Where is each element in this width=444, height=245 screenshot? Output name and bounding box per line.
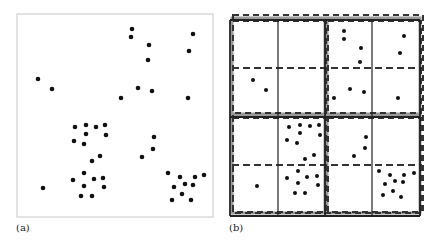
data-point [295, 141, 299, 145]
data-point [151, 147, 156, 152]
data-point [79, 194, 84, 199]
data-point [73, 125, 78, 130]
data-point [285, 176, 289, 180]
data-point [293, 191, 297, 195]
data-point [342, 29, 346, 33]
data-point [191, 183, 196, 188]
data-point [388, 173, 392, 177]
data-point [92, 177, 97, 182]
data-point [396, 96, 400, 100]
data-point [316, 183, 320, 187]
data-point [82, 184, 87, 189]
data-point [251, 78, 255, 82]
data-point [41, 186, 46, 191]
data-point [362, 90, 366, 94]
data-point [71, 178, 76, 183]
data-point [298, 123, 302, 127]
data-point [72, 139, 77, 144]
data-point [98, 154, 103, 159]
data-point [401, 180, 405, 184]
data-point [103, 123, 108, 128]
data-point [342, 37, 346, 41]
data-point [191, 32, 196, 37]
data-point [178, 175, 183, 180]
data-point [358, 60, 362, 64]
data-point [381, 193, 385, 197]
data-point [82, 142, 87, 147]
panel-b-grid-partition [230, 15, 423, 216]
data-point [332, 96, 336, 100]
data-point [150, 89, 155, 94]
data-point [183, 182, 188, 187]
data-point [287, 125, 291, 129]
data-point [264, 88, 268, 92]
data-point [202, 173, 207, 178]
data-point [363, 146, 367, 150]
data-point [186, 96, 191, 101]
data-point [50, 87, 55, 92]
data-point [352, 154, 356, 158]
data-point [303, 157, 307, 161]
data-point [129, 35, 134, 40]
data-point [152, 135, 157, 140]
data-point [180, 192, 185, 197]
data-point [296, 169, 300, 173]
data-point [94, 125, 99, 130]
data-point [364, 135, 368, 139]
data-point [84, 132, 89, 137]
data-point [317, 123, 321, 127]
data-point [193, 175, 198, 180]
panel-a-scatter [17, 14, 213, 217]
data-point [170, 198, 175, 203]
data-point [255, 184, 259, 188]
dashed-block [328, 21, 421, 113]
data-point [101, 176, 106, 181]
cell-shadow [327, 18, 420, 114]
data-point [90, 194, 95, 199]
data-point [305, 175, 309, 179]
data-point [36, 77, 41, 82]
data-point [312, 153, 316, 157]
data-point [82, 171, 87, 176]
data-point [412, 171, 416, 175]
data-point [315, 174, 319, 178]
data-point [402, 34, 406, 38]
data-point [136, 86, 141, 91]
data-point [285, 138, 289, 142]
data-point [399, 195, 403, 199]
data-point [172, 185, 177, 190]
data-point [130, 27, 135, 32]
data-point [393, 179, 397, 183]
data-point [303, 191, 307, 195]
data-point [377, 169, 381, 173]
dashed-block [328, 118, 421, 212]
data-point [90, 159, 95, 164]
data-point [102, 185, 107, 190]
data-point [296, 181, 300, 185]
data-point [402, 173, 406, 177]
data-point [189, 198, 194, 203]
data-point [147, 43, 152, 48]
grid-shadow [232, 18, 420, 213]
data-point [308, 124, 312, 128]
data-point [398, 51, 402, 55]
data-point [146, 58, 151, 63]
data-point [348, 87, 352, 91]
data-point [140, 155, 145, 160]
data-point [84, 123, 89, 128]
data-point [298, 131, 302, 135]
data-point [166, 171, 171, 176]
data-point [119, 96, 124, 101]
panel-a-label: (a) [16, 222, 30, 233]
panel-b-label: (b) [229, 222, 243, 233]
panel-a-frame [17, 14, 213, 217]
figure-canvas [0, 0, 444, 245]
cell-shadow [327, 115, 420, 213]
data-point [104, 133, 109, 138]
data-point [359, 46, 363, 50]
data-point [187, 49, 192, 54]
data-point [391, 189, 395, 193]
data-point [318, 133, 322, 137]
data-point [383, 182, 387, 186]
